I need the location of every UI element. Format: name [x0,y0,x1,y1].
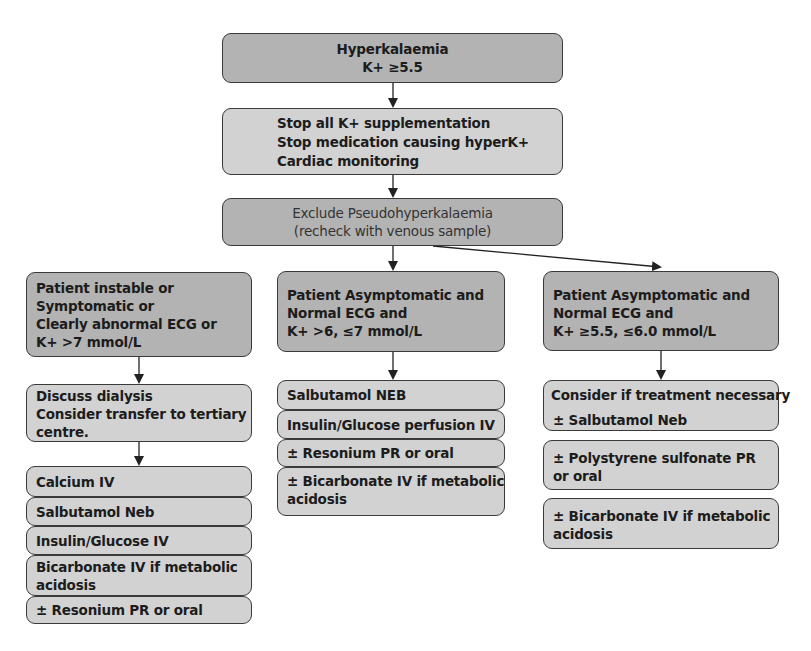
treatment-text: ± Resonium PR or oral [287,444,504,462]
treatment-text: acidosis [287,490,504,508]
treatment-salbutamol: Salbutamol Neb [26,497,252,526]
treatment-bicarbonate: ± Bicarbonate IV if metabolic acidosis [543,498,779,549]
treatment-text: Bicarbonate IV if metabolic [36,558,251,576]
condition-line: K+ >6, ≤7 mmol/L [287,322,504,340]
action-line: Cardiac monitoring [277,152,562,171]
pre-step-line: centre. [36,423,251,441]
treatment-insulin-glucose: Insulin/Glucose IV [26,526,252,555]
treatment-text: Calcium IV [36,473,251,491]
treatment-text: Salbutamol NEB [287,386,504,404]
condition-line: Normal ECG and [287,304,504,322]
condition-line: K+ ≥5.5, ≤6.0 mmol/L [553,322,778,340]
initial-actions-box: Stop all K+ supplementation Stop medicat… [222,108,563,175]
condition-line: Normal ECG and [553,304,778,322]
treatment-bicarbonate: Bicarbonate IV if metabolic acidosis [26,555,252,596]
treatment-consider-salbutamol: Consider if treatment necessary ± Salbut… [543,380,779,431]
treatment-resonium: ± Resonium PR or oral [26,596,252,624]
action-line: Stop all K+ supplementation [277,114,562,133]
treatment-text: Insulin/Glucose IV [36,532,251,550]
treatment-text: Salbutamol Neb [36,503,251,521]
threshold-line: K+ ≥5.5 [223,58,562,76]
treatment-resonium: ± Resonium PR or oral [277,439,505,467]
treatment-text: ± Salbutamol Neb [551,408,778,433]
condition-line: Patient instable or [36,279,251,297]
treatment-text: ± Resonium PR or oral [36,601,251,619]
treatment-text: acidosis [553,525,778,543]
exclude-line: Exclude Pseudohyperkalaemia [223,204,562,222]
condition-line: Clearly abnormal ECG or [36,315,251,333]
treatment-salbutamol-neb: Salbutamol NEB [277,380,505,410]
condition-line: Patient Asymptomatic and [553,286,778,304]
treatment-text: Consider if treatment necessary [551,383,778,408]
treatment-text: acidosis [36,576,251,594]
exclude-line: (recheck with venous sample) [223,222,562,240]
branch-moderate-condition: Patient Asymptomatic and Normal ECG and … [277,271,505,352]
branch-unstable-condition: Patient instable or Symptomatic or Clear… [26,272,252,357]
pre-step-line: Discuss dialysis [36,387,251,405]
action-line: Stop medication causing hyperK+ [277,133,562,152]
exclude-pseudohyperkalaemia-box: Exclude Pseudohyperkalaemia (recheck wit… [222,198,563,246]
treatment-insulin-glucose-perfusion: Insulin/Glucose perfusion IV [277,410,505,439]
title-line: Hyperkalaemia [223,40,562,58]
treatment-text: ± Polystyrene sulfonate PR [553,449,778,467]
hyperkalaemia-box: Hyperkalaemia K+ ≥5.5 [222,33,563,83]
condition-line: Symptomatic or [36,297,251,315]
condition-line: K+ >7 mmol/L [36,333,251,351]
treatment-text: or oral [553,467,778,485]
condition-line: Patient Asymptomatic and [287,286,504,304]
arrow-exclude-to-right [433,246,660,267]
treatment-polystyrene-sulfonate: ± Polystyrene sulfonate PR or oral [543,440,779,490]
pre-step-line: Consider transfer to tertiary [36,405,251,423]
treatment-text: ± Bicarbonate IV if metabolic [553,507,778,525]
treatment-bicarbonate: ± Bicarbonate IV if metabolic acidosis [277,467,505,516]
treatment-text: Insulin/Glucose perfusion IV [287,416,504,434]
treatment-text: ± Bicarbonate IV if metabolic [287,472,504,490]
branch-mild-condition: Patient Asymptomatic and Normal ECG and … [543,271,779,351]
treatment-calcium: Calcium IV [26,466,252,497]
discuss-dialysis-box: Discuss dialysis Consider transfer to te… [26,384,252,442]
